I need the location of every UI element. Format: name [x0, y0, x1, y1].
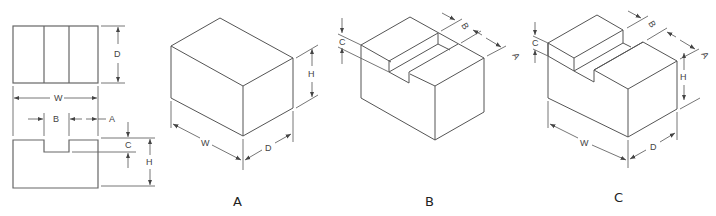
label-d: D: [114, 49, 121, 59]
label-b: B: [459, 21, 471, 31]
dimension-b-a: B A: [28, 113, 115, 136]
isometric-view-b: C B A B: [338, 13, 522, 209]
label-d: D: [265, 143, 272, 153]
technical-drawing: D W B A C: [0, 0, 716, 216]
caption-c: C: [614, 190, 623, 205]
label-a: A: [699, 50, 711, 60]
dimension-w: W: [13, 86, 98, 136]
label-b: B: [53, 114, 59, 124]
label-a: A: [109, 114, 115, 124]
orthographic-views: D W B A C: [13, 26, 155, 188]
label-h: H: [146, 157, 153, 167]
label-b: B: [646, 19, 658, 29]
dimension-d: D: [101, 26, 125, 83]
label-h: H: [308, 69, 315, 79]
caption-a: A: [233, 194, 242, 209]
label-d: D: [650, 142, 657, 152]
label-w: W: [201, 138, 210, 148]
top-view: [13, 26, 98, 83]
isometric-view-a: H W D A: [171, 18, 318, 209]
front-view: [13, 140, 98, 188]
isometric-view-c: C B A H W D C: [532, 11, 711, 205]
dimension-c: C: [72, 122, 155, 168]
label-c: C: [532, 38, 539, 48]
caption-b: B: [425, 194, 434, 209]
label-c: C: [125, 140, 132, 150]
label-c: C: [339, 37, 346, 47]
label-a: A: [510, 51, 522, 61]
label-h: H: [680, 72, 687, 82]
label-w: W: [580, 138, 589, 148]
label-w: W: [54, 93, 63, 103]
